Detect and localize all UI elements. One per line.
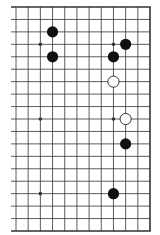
star-point — [112, 117, 116, 121]
star-point — [112, 43, 116, 47]
go-board — [0, 0, 160, 235]
star-point — [39, 117, 43, 121]
black-stone — [47, 51, 58, 62]
black-stone — [108, 51, 119, 62]
black-stone — [120, 39, 131, 50]
white-stone — [108, 76, 119, 87]
star-point — [39, 43, 43, 47]
white-stone — [120, 113, 131, 124]
black-stone — [120, 138, 131, 149]
star-point — [39, 192, 43, 196]
black-stone — [108, 188, 119, 199]
black-stone — [47, 26, 58, 37]
